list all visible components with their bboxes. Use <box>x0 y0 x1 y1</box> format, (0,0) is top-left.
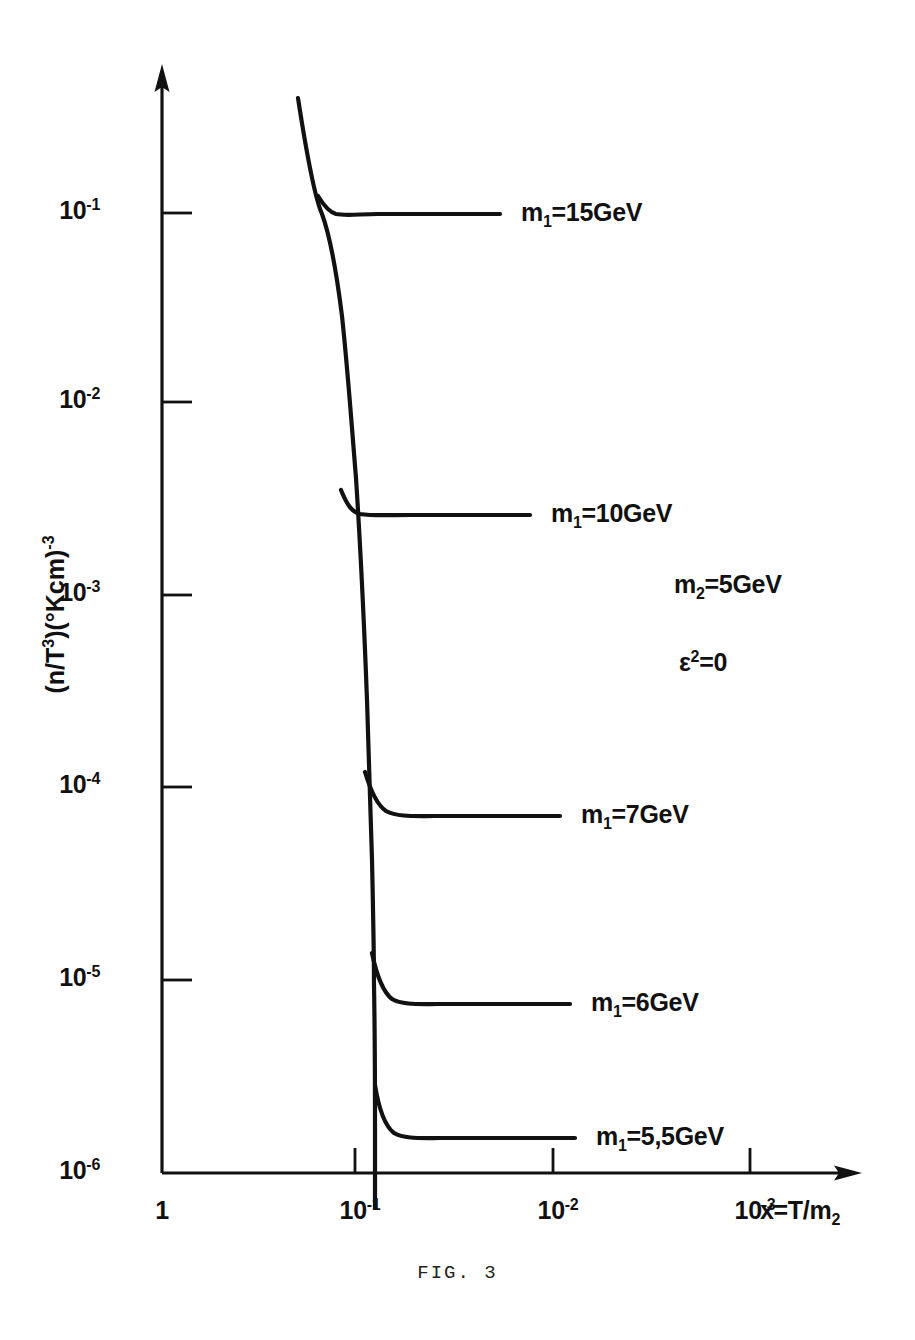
figure-caption: FIG. 3 <box>0 1262 915 1284</box>
x-tick-label-1e-2: 10-2 <box>538 1196 579 1225</box>
x-axis-title: x=T/m2 <box>760 1196 840 1225</box>
x-tick-label-1e-1: 10-1 <box>340 1196 381 1225</box>
annotation-mass2: m2=5GeV <box>674 570 782 599</box>
y-tick-label-1e-5: 10-5 <box>59 963 100 992</box>
curve-label-m1-10gev: m1=10GeV <box>551 499 672 528</box>
curve-m1-6gev <box>372 953 570 1004</box>
x-axis-ticks <box>355 1148 750 1173</box>
curve-label-m1-15gev: m1=15GeV <box>521 198 642 227</box>
figure-root: 10-1 10-2 10-3 10-4 10-5 10-6 1 10-1 10-… <box>0 0 915 1340</box>
annotation-epsilon-squared: ε2=0 <box>679 648 727 677</box>
data-curves <box>298 98 575 1208</box>
curve-label-m1-6gev: m1=6GeV <box>591 988 699 1017</box>
y-axis-ticks <box>162 213 192 980</box>
x-tick-label-1: 1 <box>155 1196 169 1225</box>
plot-canvas <box>0 0 915 1340</box>
y-tick-label-1e-4: 10-4 <box>59 770 100 799</box>
y-tick-label-1e-2: 10-2 <box>59 385 100 414</box>
curve-m1-10gev <box>341 490 530 515</box>
y-axis-title: (n/T3)(°Kcm)-3 <box>41 500 70 730</box>
curve-label-m1-5p5gev: m1=5,5GeV <box>596 1122 724 1151</box>
curve-equilibrium <box>298 98 375 1208</box>
curve-m1-15gev <box>318 196 500 215</box>
y-tick-label-1e-1: 10-1 <box>59 196 100 225</box>
curve-m1-5p5gev <box>375 1085 575 1138</box>
curve-m1-7gev <box>365 772 560 816</box>
y-tick-label-1e-6: 10-6 <box>59 1156 100 1185</box>
axis-lines <box>155 64 863 1181</box>
curve-label-m1-7gev: m1=7GeV <box>581 800 689 829</box>
